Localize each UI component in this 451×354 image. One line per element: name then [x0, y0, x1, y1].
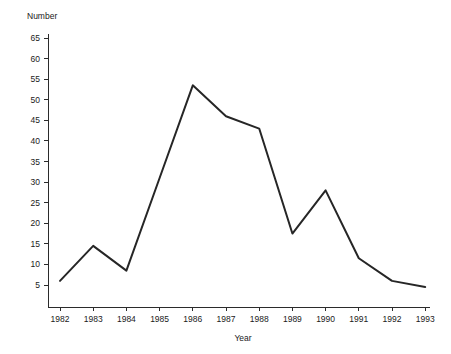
y-tick-label: 50	[31, 95, 41, 105]
chart-canvas: 5101520253035404550556065 19821983198419…	[0, 0, 451, 354]
y-tick-label: 45	[31, 115, 41, 125]
y-tick-label: 60	[31, 54, 41, 64]
y-tick-label: 25	[31, 198, 41, 208]
x-tick-label: 1990	[316, 314, 335, 324]
x-tick-label: 1992	[383, 314, 402, 324]
y-tick-label: 15	[31, 239, 41, 249]
x-tick-label: 1983	[84, 314, 103, 324]
line-chart: 5101520253035404550556065 19821983198419…	[0, 0, 451, 354]
x-axis-title: Year	[234, 333, 251, 343]
x-tick-label: 1991	[349, 314, 368, 324]
y-tick-label: 55	[31, 74, 41, 84]
x-tick-label: 1988	[250, 314, 269, 324]
y-tick-label: 35	[31, 157, 41, 167]
x-tick-label: 1987	[217, 314, 236, 324]
y-tick-label: 5	[35, 280, 40, 290]
x-tick-label: 1989	[283, 314, 302, 324]
y-axis-title: Number	[27, 11, 57, 21]
y-tick-label: 10	[31, 259, 41, 269]
chart-background	[0, 0, 451, 354]
x-tick-label: 1984	[117, 314, 136, 324]
y-tick-label: 20	[31, 218, 41, 228]
y-tick-label: 40	[31, 136, 41, 146]
x-tick-label: 1993	[416, 314, 435, 324]
x-tick-label: 1985	[150, 314, 169, 324]
x-tick-label: 1982	[51, 314, 70, 324]
y-tick-label: 30	[31, 177, 41, 187]
y-tick-label: 65	[31, 33, 41, 43]
x-tick-label: 1986	[183, 314, 202, 324]
